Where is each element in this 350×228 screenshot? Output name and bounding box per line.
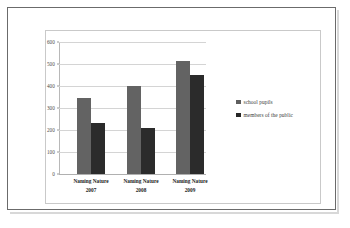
y-axis-tick-label: 300: [47, 105, 55, 111]
y-axis-tick-mark: [57, 86, 59, 87]
y-axis-tick-mark: [57, 130, 59, 131]
y-axis-tick-mark: [57, 152, 59, 153]
y-axis-tick-mark: [57, 42, 59, 43]
legend-swatch-icon: [236, 113, 241, 118]
bar-group: [127, 42, 155, 174]
y-axis-tick-label: 400: [47, 83, 55, 89]
frame-drop-shadow-right: [337, 10, 339, 213]
bar-group: [77, 42, 105, 174]
bar-members-of-the-public[interactable]: [141, 128, 155, 174]
legend-item-members-of-the-public[interactable]: members of the public: [236, 112, 320, 118]
frame-drop-shadow-bottom: [10, 212, 339, 214]
y-axis-tick-label: 100: [47, 149, 55, 155]
y-axis-tick-label: 500: [47, 61, 55, 67]
bar-group: [176, 42, 204, 174]
category-label-year: 2009: [162, 186, 218, 195]
legend-label: members of the public: [244, 112, 293, 118]
y-axis-tick-mark: [57, 64, 59, 65]
category-label: Naming Nature2008: [113, 177, 169, 194]
chart-container: 6005004003002001000 Naming Nature2007Nam…: [45, 30, 321, 204]
category-label-year: 2007: [63, 186, 119, 195]
category-label-name: Naming Nature: [63, 177, 119, 186]
y-axis-tick-mark: [57, 174, 59, 175]
category-label-name: Naming Nature: [113, 177, 169, 186]
document-frame: 6005004003002001000 Naming Nature2007Nam…: [7, 7, 336, 210]
x-axis-baseline: [59, 174, 206, 175]
y-axis-tick-label: 0: [52, 171, 55, 177]
category-label-name: Naming Nature: [162, 177, 218, 186]
category-label: Naming Nature2009: [162, 177, 218, 194]
category-label-year: 2008: [113, 186, 169, 195]
y-axis-tick-label: 600: [47, 39, 55, 45]
bar-school-pupils[interactable]: [77, 98, 91, 174]
bar-school-pupils[interactable]: [176, 61, 190, 174]
bar-school-pupils[interactable]: [127, 86, 141, 174]
y-axis-tick-label: 200: [47, 127, 55, 133]
plot-area: 6005004003002001000 Naming Nature2007Nam…: [59, 42, 206, 175]
bar-members-of-the-public[interactable]: [190, 75, 204, 174]
y-axis-tick-mark: [57, 108, 59, 109]
legend-swatch-icon: [236, 100, 241, 105]
category-label: Naming Nature2007: [63, 177, 119, 194]
legend-item-school-pupils[interactable]: school pupils: [236, 99, 320, 105]
bar-members-of-the-public[interactable]: [91, 123, 105, 174]
chart-legend: school pupilsmembers of the public: [236, 99, 320, 125]
legend-label: school pupils: [244, 99, 273, 105]
